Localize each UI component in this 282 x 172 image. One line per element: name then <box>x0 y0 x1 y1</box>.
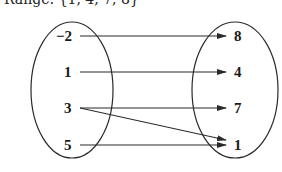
mapping-diagram: −2 1 3 5 8 4 7 1 <box>0 0 282 172</box>
domain-element: 3 <box>64 100 72 116</box>
range-element: 7 <box>234 100 242 116</box>
range-element: 8 <box>234 28 242 44</box>
range-element: 1 <box>234 137 242 153</box>
domain-element: 1 <box>64 64 72 80</box>
arrow-3-to-1 <box>80 108 226 140</box>
domain-element: −2 <box>56 28 72 44</box>
range-element: 4 <box>234 64 242 80</box>
domain-element: 5 <box>64 137 72 153</box>
